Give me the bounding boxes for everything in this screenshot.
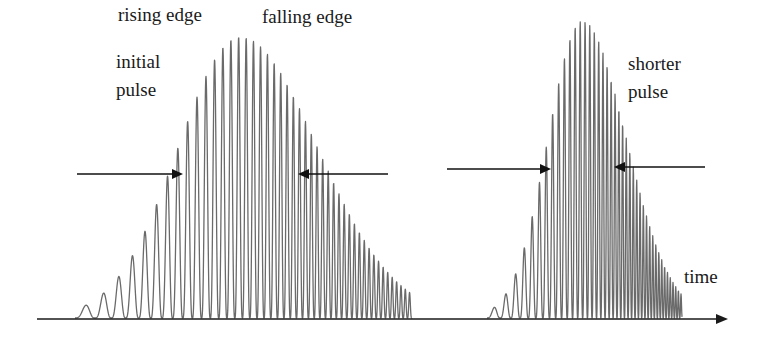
arrowhead-icon [298, 169, 309, 179]
pulse-waveforms [75, 22, 682, 318]
time-axis-label: time [684, 266, 718, 288]
initial-pulse-label: initial pulse [116, 48, 160, 104]
falling-edge-label: falling edge [262, 6, 352, 28]
pulse-compression-diagram: rising edge falling edge initial pulse s… [0, 0, 762, 340]
axis-arrowhead-icon [716, 314, 728, 324]
shorter-pulse-label: shorter pulse [628, 50, 681, 106]
rising-edge-label: rising edge [118, 4, 202, 26]
